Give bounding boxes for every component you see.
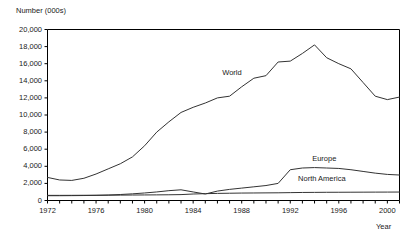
x-tick-label: 1992 (270, 206, 310, 215)
y-tick-label: 12,000 (0, 93, 42, 102)
y-tick-label: 14,000 (0, 76, 42, 85)
x-tick-label: 1976 (76, 206, 116, 215)
x-tick-label: 1972 (28, 206, 68, 215)
y-tick-label: 0 (0, 196, 42, 205)
series-label-world: World (222, 68, 241, 77)
y-tick-label: 10,000 (0, 110, 42, 119)
series-label-north-america: North America (298, 174, 346, 183)
y-tick-label: 16,000 (0, 59, 42, 68)
x-tick-label: 1984 (173, 206, 213, 215)
x-tick-label: 1996 (319, 206, 359, 215)
y-tick-label: 18,000 (0, 42, 42, 51)
y-tick-label: 6,000 (0, 144, 42, 153)
y-tick-label: 4,000 (0, 161, 42, 170)
plot-area (0, 0, 413, 237)
line-chart: Number (000s) Year 20,00018,00016,00014,… (0, 0, 413, 237)
y-tick-label: 2,000 (0, 178, 42, 187)
series-line-world (48, 45, 400, 181)
y-tick-label: 8,000 (0, 127, 42, 136)
series-line-north-america (48, 192, 400, 195)
series-label-europe: Europe (312, 154, 336, 163)
x-tick-label: 1988 (222, 206, 262, 215)
y-tick-label: 20,000 (0, 25, 42, 34)
x-tick-label: 1980 (125, 206, 165, 215)
x-tick-label: 2000 (367, 206, 407, 215)
